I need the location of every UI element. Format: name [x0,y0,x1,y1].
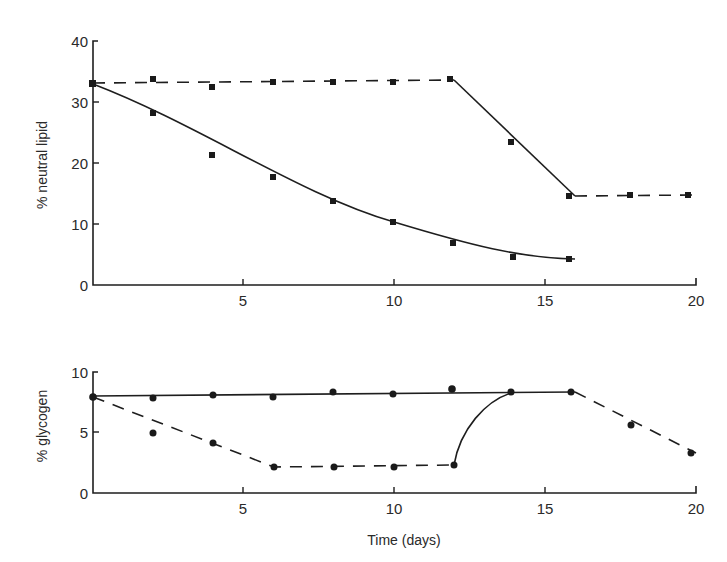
glycogen-late-decline-dashed [575,392,696,453]
top-xtick-label: 15 [537,292,554,309]
lipid-decline-curve [93,84,575,259]
lipid-drop-line [454,80,575,196]
top-y-axis [93,41,696,285]
bottom-panel: 10 5 0 5 10 15 20 % glycogen Time (days) [34,364,704,548]
bottom-ytick-label: 0 [80,485,88,502]
bottom-y-axis-label: % glycogen [34,390,50,462]
top-xtick-label: 10 [386,292,403,309]
top-panel: 40 30 20 10 0 5 10 15 20 % neutral lipid [34,33,704,309]
top-ytick-label: 40 [71,33,88,50]
top-xtick-label: 20 [688,292,705,309]
bottom-xtick-label: 20 [688,500,705,517]
bottom-ytick-label: 5 [80,424,88,441]
top-y-axis-label: % neutral lipid [34,121,50,209]
figure-canvas: 40 30 20 10 0 5 10 15 20 % neutral lipid [0,0,727,562]
glycogen-markers [89,385,694,470]
top-ytick-label: 30 [71,94,88,111]
top-xtick-label: 5 [239,292,247,309]
top-ytick-label: 10 [71,216,88,233]
bottom-xtick-label: 15 [537,500,554,517]
bottom-xtick-label: 5 [239,500,247,517]
bottom-xtick-label: 10 [386,500,403,517]
top-ytick-label: 20 [71,155,88,172]
glycogen-recovery-curve [454,392,514,465]
x-axis-label: Time (days) [367,532,440,548]
top-ytick-label: 0 [80,277,88,294]
bottom-axes [93,372,696,493]
lipid-markers [89,76,691,262]
glycogen-early-decline-dashed [93,397,454,467]
bottom-ytick-label: 10 [71,364,88,381]
lipid-low-plateau-dashed [575,195,696,196]
